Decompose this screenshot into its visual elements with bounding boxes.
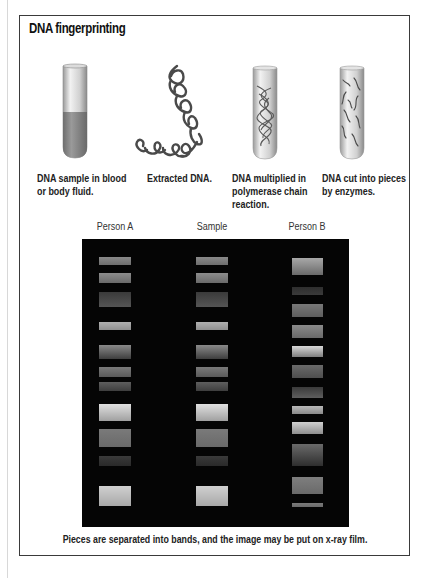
- gel-band-lane-3: [292, 503, 323, 507]
- gel-band-lane-3: [292, 477, 323, 494]
- caption-line: Extracted DNA.: [147, 172, 241, 185]
- gel-band-lane-2: [196, 429, 228, 447]
- electrophoresis-gel: [82, 239, 349, 527]
- test-tube-blood-icon: [60, 62, 90, 162]
- gel-band-lane-2: [196, 404, 228, 421]
- caption-line: DNA sample in blood: [37, 172, 131, 185]
- gel-band-lane-2: [196, 322, 228, 330]
- gel-band-lane-3: [292, 422, 323, 434]
- gel-band-lane-1: [99, 486, 131, 506]
- caption-line: by enzymes.: [322, 185, 416, 198]
- figure-title: DNA fingerprinting: [29, 20, 125, 36]
- gel-band-lane-1: [99, 273, 131, 283]
- caption-line: or body fluid.: [37, 185, 131, 198]
- gel-band-lane-3: [292, 406, 323, 414]
- gel-band-lane-2: [196, 257, 228, 265]
- gel-band-lane-3: [292, 346, 323, 357]
- gel-band-lane-1: [99, 292, 131, 307]
- gel-band-lane-2: [196, 456, 228, 466]
- caption-line: reaction.: [232, 198, 326, 211]
- step-caption-pcr: DNA multiplied in polymerase chain react…: [232, 172, 326, 211]
- gel-band-lane-3: [292, 287, 323, 295]
- gel-band-lane-2: [196, 345, 228, 359]
- gel-band-lane-2: [196, 367, 228, 377]
- gel-band-lane-3: [292, 365, 323, 378]
- lane-label-person-a: Person A: [79, 221, 151, 232]
- gel-band-lane-1: [99, 404, 131, 421]
- gel-band-lane-3: [292, 444, 323, 466]
- gel-band-lane-3: [292, 387, 323, 398]
- gel-band-lane-2: [196, 292, 228, 307]
- gel-caption: Pieces are separated into bands, and the…: [43, 534, 386, 545]
- gel-band-lane-1: [99, 456, 131, 466]
- gel-band-lane-3: [292, 304, 323, 317]
- gel-band-lane-3: [292, 325, 323, 338]
- caption-line: DNA cut into pieces: [322, 172, 416, 185]
- step-caption-blood-sample: DNA sample in blood or body fluid.: [37, 172, 131, 198]
- gel-band-lane-1: [99, 322, 131, 330]
- gel-band-lane-1: [99, 257, 131, 265]
- step-caption-extracted-dna: Extracted DNA.: [147, 172, 241, 185]
- gel-band-lane-2: [196, 273, 228, 283]
- test-tube-pcr-icon: [251, 64, 279, 162]
- lane-label-sample: Sample: [176, 221, 248, 232]
- gel-band-lane-2: [196, 382, 228, 391]
- gel-band-lane-1: [99, 429, 131, 447]
- test-tube-fragments-icon: [338, 64, 366, 162]
- gel-band-lane-2: [196, 486, 228, 506]
- gel-band-lane-1: [99, 345, 131, 359]
- caption-line: DNA multiplied in: [232, 172, 326, 185]
- dna-helix-icon: [133, 60, 213, 162]
- gel-band-lane-1: [99, 382, 131, 391]
- lane-label-person-b: Person B: [271, 221, 343, 232]
- step-caption-enzymes: DNA cut into pieces by enzymes.: [322, 172, 416, 198]
- gel-band-lane-1: [99, 367, 131, 377]
- page-edge-divider: [7, 0, 8, 578]
- gel-band-lane-3: [292, 258, 323, 275]
- caption-line: polymerase chain: [232, 185, 326, 198]
